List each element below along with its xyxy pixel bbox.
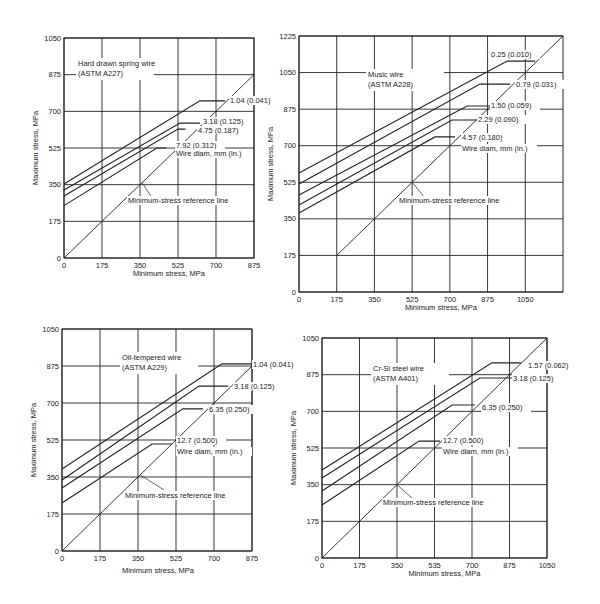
chart-subtitle: (ASTM A228) (368, 80, 414, 89)
y-tick-label: 175 (46, 510, 59, 519)
x-tick-label: 875 (503, 561, 516, 570)
x-tick-label: 0 (320, 561, 324, 570)
x-tick-label: 175 (96, 261, 109, 270)
x-axis-label: Minimum stress, MPa (405, 303, 478, 312)
x-tick-label: 175 (330, 295, 343, 304)
series-label: 4.75 (0.187) (198, 126, 239, 135)
reference-line-label: Minimum-stress reference line (399, 196, 499, 205)
y-tick-label: 700 (48, 107, 61, 116)
reference-line (62, 366, 252, 551)
legend-title: Wire diam, mm (in.) (177, 447, 243, 456)
x-tick-label: 700 (208, 554, 221, 563)
legend-title: Wire diam, mm (in.) (462, 144, 528, 153)
series-label: 1.04 (0.041) (230, 96, 271, 105)
y-axis-label: Maximum stress, MPa (289, 410, 298, 485)
y-tick-label: 175 (48, 217, 61, 226)
y-tick-label: 875 (283, 105, 296, 114)
chart-subtitle: (ASTM A227) (78, 69, 124, 78)
series-label: 3.18 (0.125) (513, 374, 554, 383)
x-tick-label: 875 (481, 295, 494, 304)
x-tick-label: 0 (60, 554, 64, 563)
x-tick-label: 875 (246, 554, 259, 563)
series-label: 12.7 (0.500) (443, 436, 484, 445)
x-axis-label: Minimum stress, MPa (408, 569, 481, 578)
series-label: 1.50 (0.059) (491, 101, 532, 110)
legend-title: Wire diam, mm (in.) (443, 447, 509, 456)
y-tick-label: 0 (315, 554, 319, 563)
y-tick-label: 525 (283, 178, 296, 187)
chart-music-wire: 0175350525700875105001753505257008751050… (266, 32, 565, 313)
y-tick-label: 350 (283, 214, 296, 223)
spring-wire-fatigue-charts: 017535052570087501753505257008751050Mini… (0, 0, 600, 604)
y-tick-label: 1225 (279, 32, 296, 41)
y-tick-label: 175 (306, 517, 319, 526)
legend-title: Wire diam, mm (in.) (176, 149, 242, 158)
y-tick-label: 0 (57, 254, 61, 263)
x-axis-label: Minimum stress, MPa (122, 566, 195, 575)
y-tick-label: 875 (48, 70, 61, 79)
series-label: 6.35 (0.250) (482, 403, 523, 412)
chart-oil-tempered: 017535052570087501753505257008751050Mini… (29, 325, 302, 576)
series-line (64, 129, 186, 196)
series-label: 12.7 (0.500) (177, 436, 218, 445)
y-tick-label: 525 (46, 436, 59, 445)
y-tick-label: 700 (283, 141, 296, 150)
series-label: 0.79 (0.031) (516, 80, 557, 89)
chart-subtitle: (ASTM A229) (122, 363, 168, 372)
y-axis-label: Maximum stress, MPa (266, 126, 275, 201)
y-tick-label: 875 (46, 362, 59, 371)
chart-title: Oil-tempered wire (122, 353, 181, 362)
chart-hard-drawn: 017535052570087501753505257008751050Mini… (31, 34, 279, 279)
y-tick-label: 350 (48, 180, 61, 189)
y-tick-label: 875 (306, 370, 319, 379)
series-label: 6.35 (0.250) (209, 405, 250, 414)
x-tick-label: 1050 (517, 295, 534, 304)
y-tick-label: 350 (46, 473, 59, 482)
series-label: 1.57 (0.062) (528, 361, 569, 370)
reference-line-label: Minimum-stress reference line (125, 491, 225, 500)
reference-line-label: Minimum-stress reference line (383, 498, 483, 507)
x-tick-label: 350 (391, 561, 404, 570)
y-tick-label: 700 (46, 399, 59, 408)
series-label: 3.18 (0.125) (234, 382, 275, 391)
x-axis-label: Minimum stress, MPa (133, 269, 206, 278)
y-tick-label: 175 (283, 251, 296, 260)
reference-pointer (397, 485, 413, 499)
chart-cr-si-steel: 0175350535700875105001753505257008751050… (289, 334, 577, 579)
series-line (322, 441, 440, 505)
series-label: 3.18 (0.125) (203, 117, 244, 126)
x-tick-label: 350 (368, 295, 381, 304)
y-tick-label: 525 (48, 144, 61, 153)
y-tick-label: 700 (306, 407, 319, 416)
series-label: 1.04 (0.041) (253, 360, 294, 369)
y-axis-label: Maximum stress, MPa (31, 110, 40, 185)
x-tick-label: 175 (94, 554, 107, 563)
chart-title: Cr-Si steel wire (373, 364, 424, 373)
y-tick-label: 350 (306, 480, 319, 489)
chart-title: Hard drawn spring wire (78, 59, 155, 68)
y-tick-label: 1050 (44, 34, 61, 43)
x-tick-label: 350 (132, 554, 145, 563)
x-tick-label: 875 (248, 261, 261, 270)
x-tick-label: 0 (297, 295, 301, 304)
y-tick-label: 525 (306, 444, 319, 453)
x-tick-label: 175 (353, 561, 366, 570)
x-tick-label: 0 (62, 261, 66, 270)
chart-subtitle: (ASTM A401) (373, 374, 419, 383)
x-tick-label: 1050 (539, 561, 556, 570)
y-tick-label: 0 (292, 288, 296, 297)
y-axis-label: Maximum stress, MPa (29, 402, 38, 477)
series-label: 4.57 (0.180) (462, 133, 503, 142)
y-tick-label: 0 (55, 547, 59, 556)
x-tick-label: 525 (170, 554, 183, 563)
x-tick-label: 700 (210, 261, 223, 270)
y-tick-label: 1050 (302, 334, 319, 343)
y-tick-label: 1050 (279, 68, 296, 77)
series-label: 0.25 (0.010) (491, 50, 532, 59)
reference-line-label: Minimum-stress reference line (128, 196, 228, 205)
y-tick-label: 1050 (42, 325, 59, 334)
series-label: 2.29 (0.090) (478, 115, 519, 124)
chart-title: Music wire (368, 70, 403, 79)
